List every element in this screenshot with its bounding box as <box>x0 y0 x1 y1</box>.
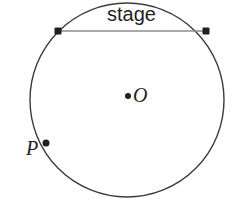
diagram-svg <box>0 0 236 208</box>
circle-center-marker <box>125 93 131 99</box>
chord-right-endpoint-marker <box>203 28 210 35</box>
stage-label: stage <box>107 4 156 24</box>
center-point-label: O <box>133 85 147 105</box>
point-p-label: P <box>26 138 38 158</box>
point-p-marker <box>43 140 50 147</box>
circle-diagram-canvas: stage O P <box>0 0 236 208</box>
chord-left-endpoint-marker <box>55 28 62 35</box>
